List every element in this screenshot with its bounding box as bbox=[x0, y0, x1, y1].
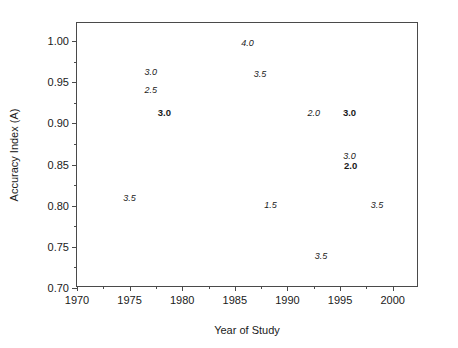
y-tick-label: 0.70 bbox=[48, 282, 69, 294]
x-tick-mark bbox=[130, 286, 131, 291]
y-tick-label: 0.80 bbox=[48, 200, 69, 212]
x-tick-mark bbox=[340, 286, 341, 291]
x-tick-mark bbox=[77, 286, 78, 291]
y-tick-mark bbox=[72, 41, 77, 42]
y-tick-label: 0.90 bbox=[48, 117, 69, 129]
y-tick-label: 1.00 bbox=[48, 35, 69, 47]
x-tick-mark bbox=[393, 286, 394, 291]
y-tick-mark bbox=[72, 123, 77, 124]
x-tick-label: 1975 bbox=[117, 294, 141, 306]
data-point-label: 3.0 bbox=[158, 108, 171, 118]
y-minor-tick-mark bbox=[74, 226, 77, 227]
chart-figure: Accuracy Index (A) Year of Study 0.700.7… bbox=[0, 0, 458, 348]
data-point-label: 3.0 bbox=[343, 108, 356, 118]
y-minor-tick-mark bbox=[74, 267, 77, 268]
x-minor-tick-mark bbox=[103, 286, 104, 289]
data-point-label: 1.5 bbox=[264, 200, 277, 209]
data-point-label: 2.0 bbox=[308, 108, 321, 117]
y-minor-tick-mark bbox=[74, 144, 77, 145]
x-axis-title: Year of Study bbox=[214, 324, 280, 336]
y-tick-mark bbox=[72, 206, 77, 207]
x-tick-mark bbox=[182, 286, 183, 291]
plot-area: 0.700.750.800.850.900.951.00 19701975198… bbox=[76, 22, 418, 287]
x-tick-label: 1980 bbox=[170, 294, 194, 306]
x-minor-tick-mark bbox=[366, 286, 367, 289]
data-point-label: 2.0 bbox=[344, 161, 357, 171]
y-tick-mark bbox=[72, 247, 77, 248]
y-axis-title: Accuracy Index (A) bbox=[8, 109, 20, 202]
y-minor-tick-mark bbox=[74, 103, 77, 104]
y-tick-mark bbox=[72, 82, 77, 83]
data-point-label: 3.5 bbox=[315, 251, 328, 260]
x-tick-label: 1970 bbox=[65, 294, 89, 306]
data-point-label: 4.0 bbox=[241, 38, 254, 47]
data-point-label: 3.0 bbox=[144, 67, 157, 76]
x-minor-tick-mark bbox=[314, 286, 315, 289]
x-minor-tick-mark bbox=[209, 286, 210, 289]
y-minor-tick-mark bbox=[74, 62, 77, 63]
y-tick-label: 0.95 bbox=[48, 76, 69, 88]
y-tick-label: 0.75 bbox=[48, 241, 69, 253]
x-tick-label: 1990 bbox=[275, 294, 299, 306]
y-tick-mark bbox=[72, 165, 77, 166]
x-tick-mark bbox=[235, 286, 236, 291]
data-point-label: 3.5 bbox=[371, 200, 384, 209]
x-tick-mark bbox=[287, 286, 288, 291]
x-tick-label: 1985 bbox=[223, 294, 247, 306]
y-tick-label: 0.85 bbox=[48, 159, 69, 171]
data-point-label: 2.5 bbox=[144, 85, 157, 94]
x-tick-label: 1995 bbox=[328, 294, 352, 306]
x-tick-label: 2000 bbox=[380, 294, 404, 306]
data-point-label: 3.5 bbox=[254, 70, 267, 79]
data-point-label: 3.5 bbox=[123, 194, 136, 203]
y-minor-tick-mark bbox=[74, 185, 77, 186]
x-minor-tick-mark bbox=[156, 286, 157, 289]
x-minor-tick-mark bbox=[261, 286, 262, 289]
